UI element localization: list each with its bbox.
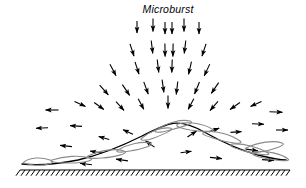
downdraft-arrow-10 <box>184 41 186 54</box>
downdraft-arrow-14 <box>157 60 159 73</box>
ground-hatch-3 <box>31 170 35 176</box>
ground-hatch-5 <box>41 170 45 176</box>
downdraft-arrow-22 <box>176 82 178 95</box>
ground-hatch-7 <box>51 170 55 176</box>
ground-hatch-19 <box>111 170 115 176</box>
outflow-right-arrow-3 <box>231 132 242 133</box>
downdraft-arrow-13 <box>135 62 139 74</box>
downdraft-arrow-23 <box>195 82 200 94</box>
ground-hatch-17 <box>101 170 105 176</box>
outflow-left-arrow-9 <box>116 159 128 161</box>
downdraft-arrow-24 <box>211 83 218 94</box>
outflow-left-arrow-6 <box>123 130 133 135</box>
ground-hatch-49 <box>261 170 265 176</box>
downdraft-arrow-25 <box>75 102 86 107</box>
downdraft-arrow-26 <box>94 102 104 109</box>
downdraft-arrow-27 <box>116 102 124 111</box>
ground-hatch-11 <box>71 170 75 176</box>
ground-hatch-25 <box>141 170 145 176</box>
ground-hatch-36 <box>196 170 200 176</box>
ground-hatch-38 <box>206 170 210 176</box>
ground-hatch-29 <box>161 170 165 176</box>
ground-hatch-15 <box>91 170 95 176</box>
downdraft-arrow-16 <box>189 62 192 75</box>
ground-hatch-18 <box>106 170 110 176</box>
page-title: Microburst <box>142 3 194 15</box>
ground-hatch-23 <box>131 170 135 176</box>
ground-hatch-41 <box>221 170 225 176</box>
ground-line <box>16 170 290 176</box>
ground-hatch-4 <box>36 170 40 176</box>
ground-hatch-9 <box>61 170 65 176</box>
ground-hatch-50 <box>266 170 270 176</box>
ground-hatch-34 <box>186 170 190 176</box>
ground-hatch-48 <box>256 170 260 176</box>
downdraft-arrow-33 <box>251 102 262 107</box>
ground-hatch-20 <box>116 170 120 176</box>
downdraft-arrow-18 <box>100 85 109 95</box>
ground-hatch-6 <box>46 170 50 176</box>
ground-hatch-21 <box>121 170 125 176</box>
vortex-roll-outlines <box>23 120 288 165</box>
ground-hatch-8 <box>56 170 60 176</box>
ground-hatch-27 <box>151 170 155 176</box>
downdraft-arrow-21 <box>162 80 164 93</box>
ground-hatch-2 <box>26 170 30 176</box>
ground-hatch-54 <box>286 170 290 176</box>
downdraft-arrow-7 <box>151 41 153 54</box>
ground-hatch-42 <box>226 170 230 176</box>
ground-hatch-16 <box>96 170 100 176</box>
ground-hatch-12 <box>76 170 80 176</box>
downdraft-arrow-6 <box>130 44 134 56</box>
ground-hatch-1 <box>21 170 25 176</box>
ground-hatch-32 <box>176 170 180 176</box>
outflow-left-arrow-2 <box>70 126 82 127</box>
outflow-left-arrow-8 <box>80 163 92 164</box>
ground-hatch-31 <box>171 170 175 176</box>
ground-hatch-52 <box>276 170 280 176</box>
downdraft-arrow-31 <box>210 101 218 110</box>
ground-hatch-10 <box>66 170 70 176</box>
downdraft-arrow-11 <box>202 44 206 56</box>
outflow-left-arrow-5 <box>99 137 110 140</box>
ground-hatch-24 <box>136 170 140 176</box>
ground-hatch-33 <box>181 170 185 176</box>
outflow-right-arrow-7 <box>210 157 222 158</box>
ground-hatch-37 <box>201 170 205 176</box>
outflow-arrows-left <box>36 110 155 165</box>
downdraft-arrow-30 <box>188 99 194 110</box>
ground-hatch-28 <box>156 170 160 176</box>
ground-hatch-45 <box>241 170 245 176</box>
ground-hatch-51 <box>271 170 275 176</box>
ground-hatch-43 <box>231 170 235 176</box>
downdraft-arrow-field <box>75 19 262 111</box>
downdraft-arrow-28 <box>138 99 144 110</box>
downdraft-arrow-32 <box>230 103 240 110</box>
ground-hatch-0 <box>16 170 20 176</box>
outflow-right-arrow-9 <box>181 151 192 153</box>
ground-hatch-13 <box>81 170 85 176</box>
ground-hatch-26 <box>146 170 150 176</box>
downdraft-arrow-17 <box>204 64 210 76</box>
diagram-canvas: Microburst <box>0 0 306 188</box>
ground-hatch-22 <box>126 170 130 176</box>
ground-hatch-14 <box>86 170 90 176</box>
ground-hatch-39 <box>211 170 215 176</box>
outflow-boundary-curve <box>22 123 286 165</box>
ground-hatch-47 <box>251 170 255 176</box>
outflow-right-arrow-6 <box>246 149 258 151</box>
outflow-left-arrow-3 <box>60 145 72 146</box>
ground-hatch-44 <box>236 170 240 176</box>
ground-hatch-53 <box>281 170 285 176</box>
ground-hatch-35 <box>191 170 195 176</box>
ground-hatch-46 <box>246 170 250 176</box>
downdraft-arrow-12 <box>110 64 116 75</box>
outflow-right-arrow-5 <box>187 131 196 137</box>
downdraft-arrow-20 <box>144 82 148 94</box>
ground-hatch-40 <box>216 170 220 176</box>
downdraft-arrow-19 <box>122 85 129 96</box>
ground-hatch-30 <box>166 170 170 176</box>
microburst-diagram: Microburst <box>0 0 306 188</box>
